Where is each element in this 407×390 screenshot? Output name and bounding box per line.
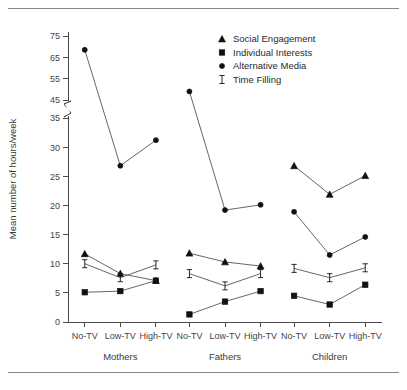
x-tick-label: Low-TV [314,331,345,341]
marker-bar-3-0-2 [153,261,158,269]
marker-circle-2-1-2 [258,202,263,207]
group-label-mothers: Mothers [103,351,138,362]
marker-triangle-0-2-2 [362,172,369,178]
y-tick-label: 25 [50,172,60,182]
marker-bar-3-2-1 [327,274,332,282]
y-tick-label: 55 [50,74,60,84]
y-tick-label: 5 [55,288,60,298]
series-line-segment [189,91,260,210]
y-tick-label: 30 [50,143,60,153]
y-axis-title-text: Mean number of hours/week [7,119,18,240]
x-tick-label: No-TV [176,331,202,341]
group-labels: MothersFathersChildren [103,351,347,362]
marker-triangle-legend-0 [219,36,226,42]
x-tick-label: High-TV [244,331,277,341]
series-social-engagement [81,162,368,283]
marker-triangle-0-2-0 [291,162,298,168]
marker-square-1-2-2 [363,282,368,287]
x-tick-label: No-TV [281,331,307,341]
legend-label-0: Social Engagement [233,33,316,44]
group-label-children: Children [312,351,347,362]
marker-square-1-0-0 [82,290,87,295]
marker-bar-3-1-2 [258,270,263,278]
y-tick-label: 0 [55,317,60,327]
series-group [81,47,368,317]
x-axis-ticks: No-TVLow-TVHigh-TVNo-TVLow-TVHigh-TVNo-T… [72,322,382,341]
marker-square-1-2-1 [327,302,332,307]
marker-square-1-0-1 [118,288,123,293]
marker-circle-2-2-0 [292,209,297,214]
figure-container: 0510152025303545556575 No-TVLow-TVHigh-T… [0,0,407,390]
y-tick-label: 75 [50,31,60,41]
series-line-segment [294,166,365,195]
marker-square-legend-1 [219,50,224,55]
marker-bar-3-2-2 [363,264,368,272]
legend-label-1: Individual Interests [233,47,312,58]
bottom-divider-rule [8,372,399,373]
x-tick-label: High-TV [349,331,382,341]
marker-circle-2-1-1 [223,208,228,213]
legend-label-2: Alternative Media [233,60,307,71]
y-tick-label: 45 [50,95,60,105]
marker-bar-3-1-0 [187,270,192,278]
marker-circle-2-0-0 [82,47,87,52]
marker-circle-2-1-0 [187,89,192,94]
marker-bar-3-1-1 [222,282,227,290]
x-tick-label: High-TV [139,331,172,341]
x-tick-label: Low-TV [105,331,136,341]
legend-label-3: Time Filling [233,74,281,85]
y-tick-label: 10 [50,259,60,269]
y-tick-label: 35 [50,113,60,123]
y-axis-title: Mean number of hours/week [7,119,18,240]
marker-square-1-1-2 [258,288,263,293]
y-tick-label: 20 [50,201,60,211]
y-tick-label: 15 [50,230,60,240]
marker-circle-2-0-2 [153,138,158,143]
marker-circle-2-0-1 [118,163,123,168]
marker-circle-legend-2 [220,64,225,69]
marker-square-1-0-2 [153,278,158,283]
marker-triangle-0-1-0 [186,250,193,256]
x-tick-label: No-TV [72,331,98,341]
marker-triangle-0-0-0 [81,250,88,256]
series-alternative-media [82,47,368,257]
marker-bar-3-2-0 [291,264,296,272]
series-line-segment [85,50,156,166]
marker-square-1-1-1 [222,299,227,304]
axes-group [68,32,382,322]
chart-legend: Social EngagementIndividual InterestsAlt… [219,33,316,85]
marker-square-1-2-0 [291,293,296,298]
marker-circle-2-2-2 [363,234,368,239]
x-tick-label: Low-TV [209,331,240,341]
top-divider-rule [8,8,399,9]
series-line-segment [294,212,365,255]
y-tick-label: 65 [50,53,60,63]
marker-square-1-1-0 [187,312,192,317]
marker-bar-3-0-0 [82,260,87,268]
group-label-fathers: Fathers [209,351,241,362]
chart-canvas: 0510152025303545556575 No-TVLow-TVHigh-T… [0,0,407,390]
marker-circle-2-2-1 [327,252,332,257]
marker-bar-legend-3 [219,76,224,84]
